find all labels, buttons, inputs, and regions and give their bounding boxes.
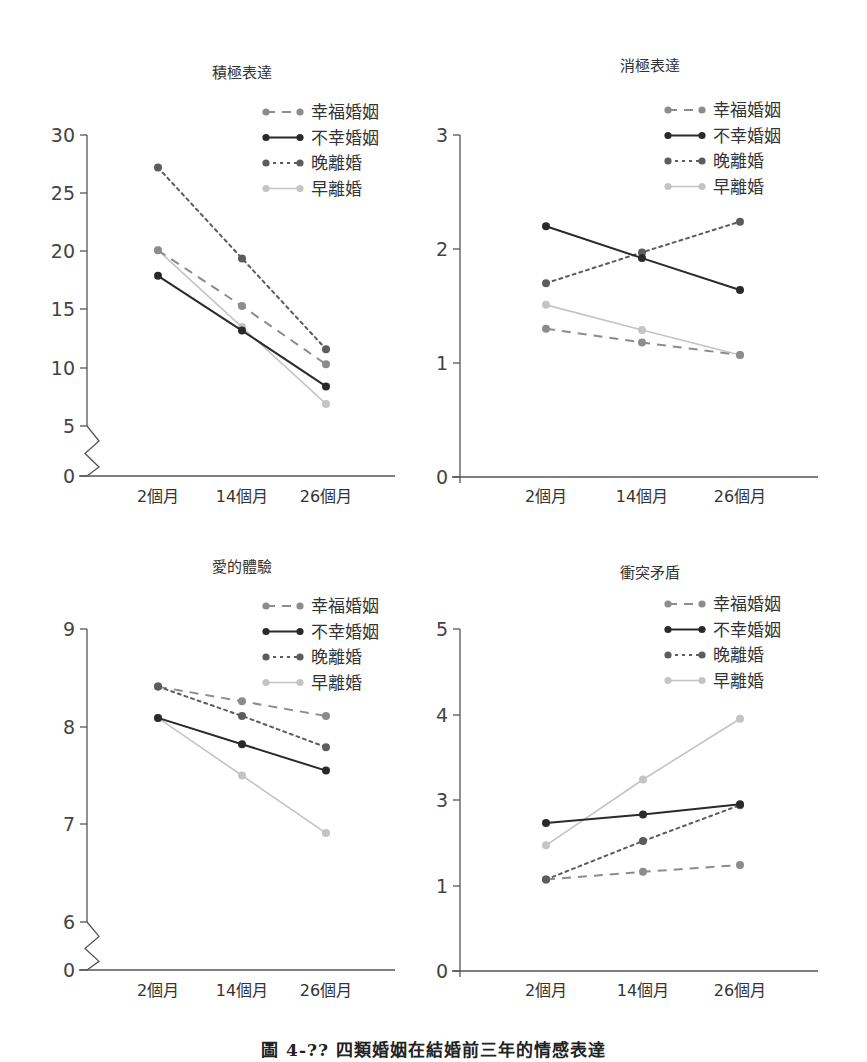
x-tick-label: 26個月	[300, 981, 352, 1000]
data-point-marker	[322, 382, 330, 390]
x-tick-label: 14個月	[216, 487, 268, 506]
data-point-marker	[736, 800, 744, 808]
series-happy	[542, 861, 744, 884]
chart-panel-2: 消極表達01232個月14個月26個月幸福婚姻不幸婚姻晚離婚早離婚	[436, 57, 818, 506]
legend-marker-icon	[296, 679, 303, 686]
chart-title: 消極表達	[620, 57, 680, 75]
legend-label: 晚離婚	[713, 645, 764, 665]
series-early_divorce	[542, 301, 744, 359]
data-point-marker	[542, 819, 550, 827]
data-point-marker	[238, 697, 246, 705]
data-point-marker	[322, 400, 330, 408]
y-tick-label: 1	[436, 875, 448, 897]
data-point-marker	[638, 326, 646, 334]
legend-marker-icon	[262, 108, 269, 115]
x-tick-label: 26個月	[714, 487, 766, 506]
legend-marker-icon	[296, 602, 303, 609]
y-tick-label: 5	[63, 415, 75, 437]
legend-marker-icon	[698, 183, 705, 190]
legend-label: 不幸婚姻	[713, 126, 781, 146]
chart-legend: 幸福婚姻不幸婚姻晚離婚早離婚	[262, 102, 379, 199]
data-point-marker	[542, 301, 550, 309]
legend-marker-icon	[296, 653, 303, 660]
y-tick-label: 3	[436, 124, 448, 146]
y-tick-label: 20	[51, 240, 75, 262]
data-point-marker	[639, 811, 647, 819]
legend-marker-icon	[698, 106, 705, 113]
legend-label: 早離婚	[713, 177, 764, 197]
chart-title: 愛的體驗	[212, 558, 272, 576]
legend-label: 不幸婚姻	[713, 620, 781, 640]
data-point-marker	[639, 868, 647, 876]
legend-label: 晚離婚	[311, 153, 362, 173]
legend-label: 早離婚	[311, 179, 362, 199]
series-late_divorce	[542, 218, 744, 288]
legend-marker-icon	[664, 106, 671, 113]
data-point-marker	[322, 360, 330, 368]
legend-label: 幸福婚姻	[713, 594, 781, 614]
legend-marker-icon	[296, 628, 303, 635]
y-tick-label: 0	[436, 960, 448, 982]
legend-marker-icon	[262, 628, 269, 635]
series-happy	[154, 246, 330, 368]
chart-legend: 幸福婚姻不幸婚姻晚離婚早離婚	[664, 594, 781, 691]
x-tick-label: 2個月	[525, 981, 567, 1000]
chart-legend: 幸福婚姻不幸婚姻晚離婚早離婚	[262, 596, 379, 693]
x-tick-label: 14個月	[216, 981, 268, 1000]
y-tick-label: 3	[436, 789, 448, 811]
legend-marker-icon	[664, 600, 671, 607]
legend-marker-icon	[698, 132, 705, 139]
axis-break-icon	[85, 922, 99, 970]
y-tick-label: 1	[436, 352, 448, 374]
legend-marker-icon	[664, 183, 671, 190]
y-tick-label: 4	[436, 704, 448, 726]
legend-label: 幸福婚姻	[713, 100, 781, 120]
y-tick-label: 2	[436, 238, 448, 260]
series-unhappy	[542, 800, 744, 827]
series-unhappy	[154, 714, 330, 775]
chart-panel-1: 積極表達0510152025302個月14個月26個月幸福婚姻不幸婚姻晚離婚早離…	[51, 64, 395, 506]
axis-break-icon	[85, 426, 99, 476]
data-point-marker	[736, 861, 744, 869]
legend-label: 不幸婚姻	[311, 622, 379, 642]
data-point-marker	[154, 272, 162, 280]
chart-legend: 幸福婚姻不幸婚姻晚離婚早離婚	[664, 100, 781, 197]
data-point-marker	[238, 772, 246, 780]
legend-marker-icon	[664, 626, 671, 633]
data-point-marker	[736, 351, 744, 359]
legend-marker-icon	[698, 626, 705, 633]
y-tick-label: 10	[51, 357, 75, 379]
legend-marker-icon	[262, 602, 269, 609]
figure-caption: 圖 4-?? 四類婚姻在結婚前三年的情感表達	[0, 1036, 867, 1061]
legend-marker-icon	[664, 157, 671, 164]
legend-marker-icon	[296, 108, 303, 115]
x-tick-label: 26個月	[300, 487, 352, 506]
data-point-marker	[736, 715, 744, 723]
series-unhappy	[542, 222, 744, 294]
data-point-marker	[639, 837, 647, 845]
data-point-marker	[238, 712, 246, 720]
legend-marker-icon	[698, 600, 705, 607]
legend-marker-icon	[698, 677, 705, 684]
data-point-marker	[638, 338, 646, 346]
chart-panel-4: 衝突矛盾013452個月14個月26個月幸福婚姻不幸婚姻晚離婚早離婚	[436, 564, 818, 1000]
y-tick-label: 5	[436, 618, 448, 640]
legend-marker-icon	[664, 677, 671, 684]
chart-title: 積極表達	[212, 64, 272, 82]
data-point-marker	[322, 743, 330, 751]
series-early_divorce	[542, 715, 744, 850]
x-tick-label: 14個月	[617, 981, 669, 1000]
legend-marker-icon	[296, 159, 303, 166]
data-point-marker	[322, 345, 330, 353]
data-point-marker	[638, 254, 646, 262]
x-tick-label: 26個月	[714, 981, 766, 1000]
data-point-marker	[322, 712, 330, 720]
legend-label: 晚離婚	[311, 647, 362, 667]
y-tick-label: 30	[51, 124, 75, 146]
data-point-marker	[154, 714, 162, 722]
y-tick-label: 0	[63, 465, 75, 487]
x-tick-label: 2個月	[525, 487, 567, 506]
data-point-marker	[542, 279, 550, 287]
y-tick-label: 6	[63, 911, 75, 933]
